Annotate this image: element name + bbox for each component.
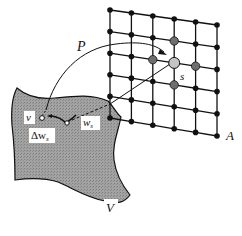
input-space-sheet bbox=[12, 88, 130, 203]
lattice-node bbox=[171, 126, 177, 132]
lattice-node bbox=[129, 32, 135, 38]
lattice-edge bbox=[131, 100, 152, 103]
lattice-node bbox=[129, 54, 135, 60]
weight-vector-point bbox=[65, 121, 69, 125]
lattice-edge bbox=[153, 125, 174, 129]
lattice-node bbox=[171, 104, 177, 110]
lattice-edge bbox=[196, 132, 217, 136]
som-diagram: v ws Δws V P s A bbox=[0, 0, 242, 236]
lattice-edge bbox=[110, 53, 131, 56]
lattice-edge bbox=[110, 10, 131, 13]
neighbor-node bbox=[170, 37, 178, 45]
lattice-edge bbox=[196, 22, 217, 25]
lattice-node bbox=[107, 94, 113, 100]
lattice-edge bbox=[196, 88, 217, 91]
lattice-edge bbox=[196, 110, 217, 113]
neighbor-node bbox=[149, 55, 157, 63]
lattice-node bbox=[214, 89, 220, 95]
lattice-node bbox=[150, 101, 156, 107]
lattice-node bbox=[107, 7, 113, 13]
label-v: v bbox=[26, 111, 31, 123]
lattice-edge bbox=[153, 16, 174, 19]
lattice-edge bbox=[131, 35, 152, 38]
lattice-edge bbox=[153, 103, 174, 106]
lattice-edge bbox=[131, 122, 152, 126]
neighbor-node bbox=[170, 81, 178, 89]
lattice-node bbox=[107, 50, 113, 56]
lattice-edge bbox=[174, 19, 195, 22]
lattice-node bbox=[193, 130, 199, 136]
lattice-edge bbox=[174, 107, 195, 110]
lattice-node bbox=[129, 119, 135, 125]
mapping-arrowhead bbox=[158, 49, 167, 55]
lattice-node bbox=[107, 29, 113, 35]
lattice-node bbox=[171, 16, 177, 22]
lattice-edge bbox=[174, 129, 195, 133]
lattice-node bbox=[107, 72, 113, 78]
lattice-node bbox=[129, 75, 135, 81]
input-vector-point bbox=[40, 116, 45, 121]
lattice-node bbox=[214, 67, 220, 73]
lattice-node bbox=[214, 111, 220, 117]
lattice-node bbox=[129, 97, 135, 103]
lattice-node bbox=[107, 115, 113, 121]
lattice-node bbox=[129, 10, 135, 16]
lattice-node bbox=[150, 13, 156, 19]
lattice-edge bbox=[131, 78, 152, 81]
lattice-node bbox=[193, 85, 199, 91]
lattice-edge bbox=[110, 75, 131, 78]
lattice-node bbox=[214, 22, 220, 28]
lattice-node bbox=[214, 44, 220, 50]
label-mapping-p: P bbox=[76, 39, 86, 54]
lattice-a bbox=[107, 7, 220, 139]
lattice-node bbox=[150, 35, 156, 41]
lattice-node bbox=[150, 122, 156, 128]
label-lattice-a: A bbox=[225, 128, 234, 143]
neighbor-node bbox=[191, 62, 199, 70]
lattice-edge bbox=[131, 13, 152, 16]
lattice-node bbox=[193, 108, 199, 114]
lattice-node bbox=[193, 19, 199, 25]
label-winner-s: s bbox=[180, 70, 184, 82]
lattice-node bbox=[193, 41, 199, 47]
winner-node-s bbox=[169, 57, 180, 68]
lattice-edge bbox=[196, 44, 217, 47]
lattice-edge bbox=[110, 32, 131, 35]
lattice-node bbox=[214, 133, 220, 139]
lattice-node bbox=[150, 79, 156, 85]
